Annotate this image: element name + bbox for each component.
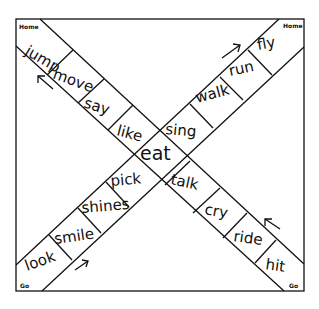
arrow-top-right-icon <box>222 44 240 58</box>
cell-cry: cry <box>203 200 229 222</box>
cell-eat-center: eat <box>140 142 171 164</box>
arrow-bottom-left-icon <box>75 260 88 270</box>
corner-label-bottom-right: Go <box>289 282 298 289</box>
board-game-diagram: Home Home Go Go jump move say like eat t… <box>0 0 319 309</box>
cell-walk: walk <box>193 81 231 107</box>
cell-shines: shines <box>81 195 131 217</box>
cell-smile: smile <box>53 225 95 248</box>
cell-hit: hit <box>264 255 286 276</box>
cell-move: move <box>51 65 97 96</box>
cell-run: run <box>227 57 255 80</box>
cell-ride: ride <box>232 227 263 249</box>
cell-say: say <box>82 94 112 119</box>
cell-fly: fly <box>256 33 277 54</box>
cell-sing: sing <box>165 120 197 141</box>
corner-label-top-right: Home <box>283 22 302 29</box>
corner-label-bottom-left: Go <box>20 282 29 289</box>
cell-pick: pick <box>110 169 142 190</box>
corner-label-top-left: Home <box>19 23 38 30</box>
cell-look: look <box>22 247 58 275</box>
arrow-bottom-right-icon <box>265 219 280 229</box>
